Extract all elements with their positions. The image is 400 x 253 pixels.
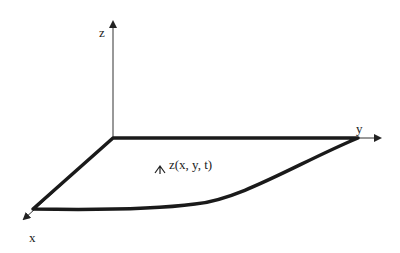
coordinate-diagram [0, 0, 400, 253]
x-axis-label: x [29, 231, 36, 244]
y-axis-label: y [356, 122, 363, 135]
z-axis-label: z [99, 26, 105, 39]
surface-label: z(x, y, t) [169, 158, 212, 171]
up-arrow-icon [155, 166, 165, 174]
surface-outline [33, 138, 358, 209]
